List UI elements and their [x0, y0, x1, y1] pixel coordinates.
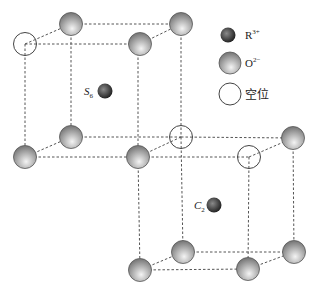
- legend-vacancy-label: 空位: [245, 87, 269, 102]
- legend-oxygen-icon: [219, 52, 241, 74]
- oxygen-atom-icon: [14, 146, 37, 169]
- crystal-diagram: S6 C2 R3+ O2− 空位: [0, 0, 316, 293]
- cation-c2-icon: [207, 198, 222, 213]
- oxygen-atom-icon: [283, 241, 306, 264]
- oxygen-atom-icon: [127, 146, 150, 169]
- legend-cation-label: R3+: [245, 28, 260, 41]
- site-label-c2: C2: [194, 199, 205, 214]
- legend-oxygen-label: O2−: [245, 56, 260, 69]
- oxygen-atom-icon: [60, 13, 83, 36]
- cation-s6-icon: [98, 84, 113, 99]
- oxygen-atom-icon: [237, 258, 260, 281]
- oxygen-atom-icon: [129, 259, 152, 282]
- oxygen-atom-icon: [129, 33, 152, 56]
- legend: R3+ O2− 空位: [219, 28, 269, 106]
- site-label-s6: S6: [84, 85, 94, 100]
- oxygen-atom-icon: [282, 127, 305, 150]
- legend-cation-icon: [221, 28, 236, 43]
- oxygen-atom-icon: [60, 126, 83, 149]
- oxygen-atom-icon: [172, 241, 195, 264]
- legend-vacancy-icon: [219, 83, 241, 105]
- oxygen-atom-icon: [170, 13, 193, 36]
